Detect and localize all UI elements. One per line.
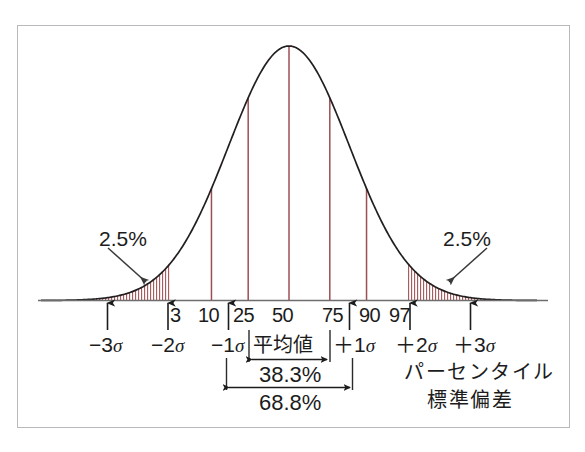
left-tail-leader-line [108,248,146,282]
percentile-tick-label-50: 50 [272,305,293,325]
sigma-sign: − [211,333,223,356]
sigma-number: 2 [416,333,428,356]
inner-span-percent-label: 38.3% [259,364,321,386]
percentile-tick-label-97: 97 [389,305,410,325]
sigma-label-plus-3: ＋3σ [453,334,495,355]
right-tail-percent-label: 2.5% [443,228,491,249]
percentile-tick-label-90: 90 [359,305,380,325]
sigma-glyph: σ [486,335,495,356]
sigma-sign: ＋ [453,333,474,356]
percentile-tick-label-10: 10 [198,305,219,325]
sigma-glyph: σ [113,335,122,356]
left-tail-percent-label: 2.5% [99,228,147,249]
sigma-sign: ＋ [333,333,354,356]
percentile-tick-label-75: 75 [322,305,343,325]
legend-sd-text: 標準偏差 [427,390,513,410]
right-tail-leader-line [449,248,487,282]
sigma-number: 1 [354,333,366,356]
sigma-label-plus-1: ＋1σ [333,334,375,355]
sigma-glyph: σ [235,335,244,356]
sigma-number: 2 [163,333,175,356]
outer-span-percent-label: 68.8% [259,392,321,414]
figure-root: 3 10 25 50 75 90 97 −3σ −2σ −1σ ＋1σ ＋2σ … [0,0,585,452]
sigma-sign: − [89,333,101,356]
sigma-glyph: σ [175,335,184,356]
sigma-label-plus-2: ＋2σ [395,334,437,355]
sigma-sign: − [151,333,163,356]
percentile-tick-label-25: 25 [233,305,254,325]
mean-label: 平均値 [253,335,313,355]
percentile-tick-label-3: 3 [170,305,181,325]
legend-percentile-text: パーセンタイル [404,362,555,382]
sigma-label-minus-2: −2σ [151,334,184,355]
sigma-label-minus-1: −1σ [211,334,244,355]
sigma-label-minus-3: −3σ [89,334,122,355]
percentile-gridlines [211,46,366,301]
sigma-number: 3 [474,333,486,356]
sigma-number: 1 [223,333,235,356]
sigma-glyph: σ [428,335,437,356]
sigma-number: 3 [101,333,113,356]
sigma-glyph: σ [366,335,375,356]
sigma-sign: ＋ [395,333,416,356]
